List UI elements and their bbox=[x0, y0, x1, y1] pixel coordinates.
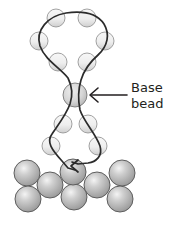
annotation-label-line1: Base bbox=[131, 80, 163, 95]
foundation-bead bbox=[14, 160, 40, 186]
annotation-label-line2: bead bbox=[131, 96, 163, 111]
foundation-bead bbox=[61, 184, 87, 210]
annotation-arrow bbox=[90, 88, 127, 102]
loop-beads bbox=[30, 9, 114, 71]
foundation-bead bbox=[37, 172, 63, 198]
foundation-bead bbox=[109, 160, 135, 186]
foundation-bead bbox=[84, 172, 110, 198]
loop-bead bbox=[47, 9, 65, 27]
foundation-beads bbox=[14, 159, 135, 212]
beadwork-diagram bbox=[0, 0, 169, 226]
foundation-bead bbox=[15, 186, 41, 212]
foundation-bead bbox=[107, 186, 133, 212]
base-bead bbox=[63, 83, 87, 107]
